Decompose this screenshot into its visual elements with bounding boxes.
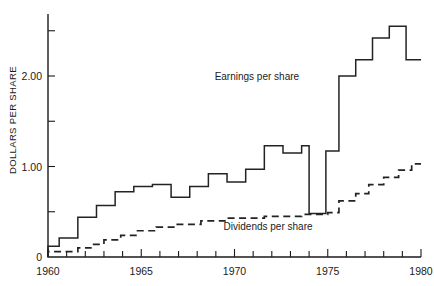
x-axis-tick-label: 1965 bbox=[130, 265, 154, 277]
x-axis-tick-label: 1975 bbox=[316, 265, 340, 277]
y-axis-tick-labels: 01.002.00 bbox=[22, 70, 43, 263]
dividends-per-share-series bbox=[48, 164, 421, 257]
y-axis-title: DOLLARS PER SHARE bbox=[7, 66, 18, 174]
y-axis-tick-label: 0 bbox=[36, 251, 42, 263]
x-axis-tick-label: 1960 bbox=[36, 265, 60, 277]
dollars-per-share-step-chart: DOLLARS PER SHARE 01.002.00 196019651970… bbox=[0, 0, 434, 286]
earnings-label: Earnings per share bbox=[215, 71, 300, 82]
x-axis-ticks bbox=[48, 249, 421, 257]
y-axis-tick-label: 2.00 bbox=[22, 70, 43, 82]
x-axis-tick-label: 1970 bbox=[223, 265, 247, 277]
y-axis-ticks bbox=[48, 31, 55, 212]
y-axis-tick-label: 1.00 bbox=[22, 161, 43, 173]
chart-container: DOLLARS PER SHARE 01.002.00 196019651970… bbox=[0, 0, 434, 286]
dividends-label: Dividends per share bbox=[224, 221, 313, 232]
y-axis-title-group: DOLLARS PER SHARE bbox=[7, 66, 18, 174]
x-axis-tick-labels: 19601965197019751980 bbox=[36, 265, 433, 277]
x-axis-tick-label: 1980 bbox=[409, 265, 433, 277]
